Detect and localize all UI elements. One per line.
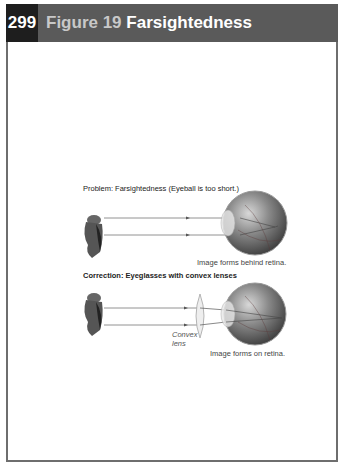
owl-object-icon <box>84 293 102 336</box>
eyeball-icon <box>221 191 287 255</box>
eyeball-icon <box>221 283 286 345</box>
correction-caption: Correction: Eyeglasses with convex lense… <box>83 271 237 280</box>
lens-label: Convex lens <box>172 330 197 348</box>
lens-label-line1: Convex <box>172 330 197 339</box>
owl-object-icon <box>84 215 102 258</box>
diagram-illustration <box>0 0 343 465</box>
correction-result-label: Image forms on retina. <box>210 349 285 358</box>
lens-label-line2: lens <box>172 339 197 348</box>
problem-result-label: Image forms behind retina. <box>197 258 286 267</box>
